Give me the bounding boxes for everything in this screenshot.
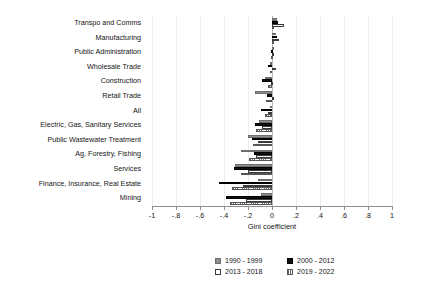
category-label: Public Administration xyxy=(0,45,146,60)
category-axis-labels: Transpo and CommsManufacturingPublic Adm… xyxy=(0,16,146,206)
legend-swatch-icon xyxy=(215,258,221,264)
bar-group xyxy=(152,104,392,119)
category-label: Electric, Gas, Sanitary Services xyxy=(0,118,146,133)
bar xyxy=(272,27,274,30)
bar xyxy=(272,68,276,71)
bar xyxy=(265,114,272,117)
bar xyxy=(232,187,272,190)
x-tick-label: -.6 xyxy=(187,211,213,220)
legend-item: 2019 - 2022 xyxy=(287,266,359,277)
category-label: Mining xyxy=(0,191,146,206)
legend-item: 2013 - 2018 xyxy=(215,266,279,277)
bar xyxy=(270,71,272,74)
category-label: All xyxy=(0,104,146,119)
bar xyxy=(241,173,272,176)
gridline xyxy=(392,16,393,206)
category-label: Construction xyxy=(0,74,146,89)
bar xyxy=(249,158,272,161)
category-label: Wholesale Trade xyxy=(0,60,146,75)
x-tick-label: 1 xyxy=(379,211,405,220)
x-tick-label: -1 xyxy=(139,211,165,220)
x-tick-label: 0 xyxy=(259,211,285,220)
bar-group xyxy=(152,16,392,31)
bar-group xyxy=(152,162,392,177)
x-tick xyxy=(392,206,393,210)
category-label: Public Wastewater Treatment xyxy=(0,133,146,148)
x-tick xyxy=(224,206,225,210)
bar-group xyxy=(152,177,392,192)
bar xyxy=(256,129,272,132)
bar-group xyxy=(152,191,392,206)
x-tick xyxy=(344,206,345,210)
legend-label: 2000 - 2012 xyxy=(297,257,334,264)
bar-group xyxy=(152,60,392,75)
bar xyxy=(272,97,274,100)
x-axis-title: Gini coefficient xyxy=(152,222,392,231)
x-tick-label: -.2 xyxy=(235,211,261,220)
bar xyxy=(268,85,272,88)
category-label: Transpo and Comms xyxy=(0,16,146,31)
bar-group xyxy=(152,45,392,60)
category-label: Ag, Forestry, Fishing xyxy=(0,147,146,162)
bar-group xyxy=(152,89,392,104)
bar xyxy=(272,41,274,44)
category-label: Retail Trade xyxy=(0,89,146,104)
bar xyxy=(266,100,272,103)
category-label: Services xyxy=(0,162,146,177)
x-tick xyxy=(272,206,273,210)
x-tick xyxy=(152,206,153,210)
bar-group xyxy=(152,133,392,148)
x-tick-label: -.8 xyxy=(163,211,189,220)
x-tick xyxy=(296,206,297,210)
x-tick xyxy=(320,206,321,210)
x-tick xyxy=(248,206,249,210)
bar-group xyxy=(152,74,392,89)
legend-item: 2000 - 2012 xyxy=(287,255,359,266)
legend-swatch-icon xyxy=(215,269,221,275)
legend-swatch-icon xyxy=(287,269,293,275)
x-tick-label: .2 xyxy=(283,211,309,220)
legend-label: 2019 - 2022 xyxy=(297,268,334,275)
gini-coefficient-bar-chart: Transpo and CommsManufacturingPublic Adm… xyxy=(0,0,429,287)
chart-legend: 1990 - 19992000 - 20122013 - 20182019 - … xyxy=(215,255,415,277)
legend-label: 1990 - 1999 xyxy=(225,257,262,264)
category-label: Finance, Insurance, Real Estate xyxy=(0,177,146,192)
bar xyxy=(253,144,272,147)
plot-area xyxy=(152,16,392,206)
bar-group xyxy=(152,31,392,46)
category-label: Manufacturing xyxy=(0,31,146,46)
bar-group xyxy=(152,147,392,162)
legend-swatch-icon xyxy=(287,258,293,264)
x-tick xyxy=(176,206,177,210)
bar xyxy=(230,202,272,205)
bar-group xyxy=(152,118,392,133)
x-tick xyxy=(368,206,369,210)
x-tick-label: .6 xyxy=(331,211,357,220)
x-tick-label: -.4 xyxy=(211,211,237,220)
bar xyxy=(271,56,273,59)
x-tick xyxy=(200,206,201,210)
x-tick-label: .8 xyxy=(355,211,381,220)
x-tick-label: .4 xyxy=(307,211,333,220)
legend-item: 1990 - 1999 xyxy=(215,255,279,266)
legend-label: 2013 - 2018 xyxy=(225,268,262,275)
